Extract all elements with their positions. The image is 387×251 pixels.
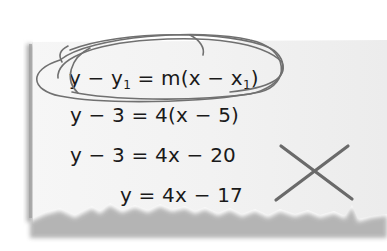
subscript: 1 (243, 78, 251, 92)
eq-part: ) (251, 66, 259, 90)
subscript: 1 (123, 78, 131, 92)
equation-substituted: y − 3 = 4(x − 5) (70, 103, 239, 127)
equation-point-slope-form: y − y1 = m(x − x1) (69, 66, 259, 92)
eq-part: y − y (69, 66, 123, 90)
equation-distributed: y − 3 = 4x − 20 (70, 143, 236, 167)
equation-slope-intercept: y = 4x − 17 (120, 183, 243, 207)
eq-part: = m(x − x (131, 66, 243, 90)
